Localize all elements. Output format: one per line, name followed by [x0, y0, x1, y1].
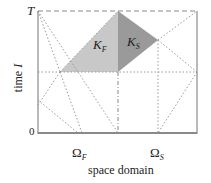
space-time-diagram: [0, 0, 211, 183]
y-tick-bottom: 0: [29, 126, 35, 137]
subdomain-fluid-label: ΩF: [72, 146, 87, 162]
y-tick-top: T: [27, 4, 34, 17]
y-axis-label-word: time: [11, 71, 25, 92]
element-kf-label: KF: [93, 38, 107, 54]
subdomain-solid-label: ΩS: [150, 146, 164, 162]
y-axis-label: time I: [12, 56, 24, 100]
y-axis-label-symbol: I: [11, 64, 25, 68]
element-ks-label: KS: [127, 35, 140, 51]
x-axis-label: space domain: [88, 164, 154, 176]
